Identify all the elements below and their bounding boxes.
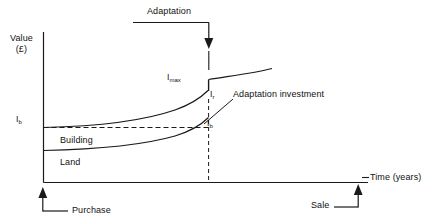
i-r-subscript: r — [212, 94, 214, 100]
value-over-time-diagram — [0, 0, 435, 223]
land-band-label: Land — [60, 157, 80, 168]
y-axis-label-line1: Value — [10, 33, 33, 43]
axis-group — [44, 32, 369, 183]
i-b-left-subscript: b — [18, 119, 21, 125]
adaptation-bracket-group — [133, 23, 213, 71]
sale-arrow-head-icon — [354, 184, 363, 195]
i-b-right-subscript: b — [209, 123, 212, 129]
sale-marker-group — [334, 184, 363, 208]
i-max-subscript: max — [169, 77, 180, 83]
adaptation-label: Adaptation — [147, 6, 191, 17]
purchase-label: Purchase — [72, 205, 111, 216]
i-r-marker-label: Ir — [210, 89, 214, 101]
building-value-curve — [44, 91, 209, 128]
i-b-right-marker-label: Ib — [207, 118, 213, 130]
purchase-marker-group — [38, 187, 68, 212]
sale-label: Sale — [311, 200, 329, 211]
adaptation-investment-label: Adaptation investment — [233, 89, 324, 100]
i-b-left-marker-label: Ib — [16, 114, 22, 126]
i-max-marker-label: Imax — [167, 72, 181, 84]
purchase-arrow-head-icon — [38, 187, 47, 198]
adaptation-arrow-head-icon — [204, 38, 213, 49]
building-band-label: Building — [60, 135, 93, 146]
x-axis-label: Time (years) — [370, 172, 421, 183]
y-axis-label-line2: (£) — [10, 44, 33, 55]
y-axis-label: Value (£) — [10, 33, 33, 55]
post-adaptation-value-curve — [209, 69, 272, 80]
